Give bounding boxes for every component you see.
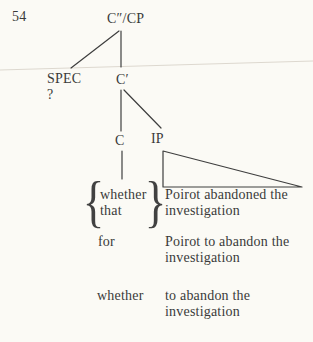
comp-option-whether: whether [100, 187, 147, 203]
branch-cbar-ip [124, 90, 161, 128]
book-page: 54 C″/CP SPEC ? C′ C IP { whether that }… [0, 0, 313, 342]
ip-example-1: Poirot abandoned the investigation [165, 187, 288, 219]
tree-node-c: C [115, 133, 125, 149]
ip-triangle [163, 151, 302, 187]
page-number: 54 [12, 9, 26, 25]
tree-node-spec-value: ? [47, 87, 53, 103]
branch-root-spec [71, 31, 119, 68]
ip-example-3: to abandon the investigation [165, 288, 250, 320]
tree-node-root: C″/CP [107, 11, 144, 27]
tree-node-spec: SPEC [47, 71, 81, 87]
comp-option-for: for [98, 234, 115, 250]
comp-options: whether that [100, 187, 147, 219]
right-brace-glyph: } [145, 177, 167, 227]
scan-artifact-line [0, 61, 313, 70]
ip-example-2: Poirot to abandon the investigation [165, 234, 289, 266]
comp-option-whether-inf: whether [97, 288, 144, 304]
tree-node-ip: IP [151, 131, 164, 147]
comp-option-that: that [100, 203, 147, 219]
tree-node-cbar: C′ [116, 72, 129, 88]
